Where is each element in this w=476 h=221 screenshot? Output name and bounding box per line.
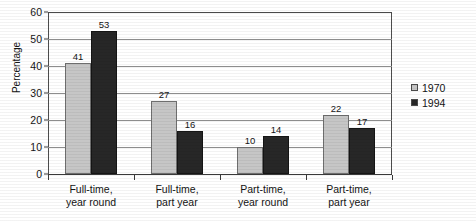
- legend-item: 1970: [411, 80, 445, 95]
- plot-area: 0102030405060 4153271610142217 Full-time…: [48, 12, 392, 175]
- y-axis-tick-label: 40: [30, 60, 42, 72]
- x-axis-tick-mark: [48, 175, 49, 180]
- legend-label: 1994: [422, 97, 445, 109]
- category-label: Part-time,year round: [238, 183, 288, 209]
- category-label: Full-time,part year: [155, 183, 198, 209]
- category-label-line: Full-time,: [155, 183, 198, 196]
- y-axis-title: Percentage: [11, 18, 22, 118]
- bar-value-label: 27: [159, 89, 170, 100]
- category-label: Full-time,year round: [66, 183, 116, 209]
- bar-value-label: 22: [331, 103, 342, 114]
- y-axis-tick-label: 10: [30, 141, 42, 153]
- bar-value-label: 16: [185, 119, 196, 130]
- y-axis-tick-label: 0: [36, 168, 42, 180]
- bar-value-label: 17: [357, 116, 368, 127]
- x-axis-tick-mark: [306, 175, 307, 180]
- legend-item: 1994: [411, 95, 445, 110]
- y-axis-tick-label: 50: [30, 33, 42, 45]
- bar: 16: [177, 131, 203, 174]
- x-axis-tick-mark: [392, 175, 393, 180]
- bar: 14: [263, 136, 289, 174]
- y-axis-tick-label: 30: [30, 87, 42, 99]
- y-axis-tick-label: 60: [30, 6, 42, 18]
- category-label: Part-time,part year: [326, 183, 372, 209]
- bar-chart: Percentage 0102030405060 415327161014221…: [0, 0, 476, 221]
- bar: 10: [237, 147, 263, 174]
- category-label-line: year round: [238, 196, 288, 209]
- x-axis-tick-mark: [220, 175, 221, 180]
- bar-value-label: 53: [99, 19, 110, 30]
- bar-value-label: 41: [73, 51, 84, 62]
- bar: 27: [151, 101, 177, 174]
- category-label-line: year round: [66, 196, 116, 209]
- legend-swatch: [411, 84, 418, 91]
- x-axis-tick-mark: [134, 175, 135, 180]
- category-label-line: part year: [326, 196, 372, 209]
- category-label-line: part year: [155, 196, 198, 209]
- bar: 41: [65, 63, 91, 174]
- bar: 17: [349, 128, 375, 174]
- bar-value-label: 14: [271, 124, 282, 135]
- category-label-line: Full-time,: [66, 183, 116, 196]
- legend-swatch: [411, 99, 418, 106]
- category-label-line: Part-time,: [238, 183, 288, 196]
- y-axis-tick-label: 20: [30, 114, 42, 126]
- legend-label: 1970: [422, 82, 445, 94]
- category-label-line: Part-time,: [326, 183, 372, 196]
- legend: 19701994: [411, 80, 445, 110]
- bar: 53: [91, 31, 117, 174]
- bars-layer: 4153271610142217: [48, 12, 392, 174]
- bar-value-label: 10: [245, 135, 256, 146]
- bar: 22: [323, 115, 349, 174]
